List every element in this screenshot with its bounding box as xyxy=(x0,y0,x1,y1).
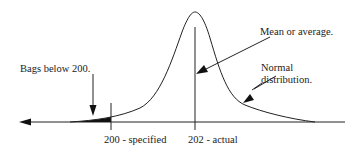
normal-distribution-label-line2: distribution. xyxy=(261,74,312,86)
axis-left-arrow-icon xyxy=(19,119,31,126)
normal-distribution-label-line1: Normal xyxy=(261,62,293,74)
mean-arrowhead-icon xyxy=(196,65,208,74)
normal-arrowhead-icon xyxy=(243,94,254,103)
mean-label: Mean or average. xyxy=(260,26,333,38)
bags-below-arrowhead-icon xyxy=(90,105,97,116)
bags-below-label: Bags below 200. xyxy=(20,63,90,75)
specified-label: 200 - specified xyxy=(104,134,166,146)
actual-label: 202 - actual xyxy=(188,134,238,146)
